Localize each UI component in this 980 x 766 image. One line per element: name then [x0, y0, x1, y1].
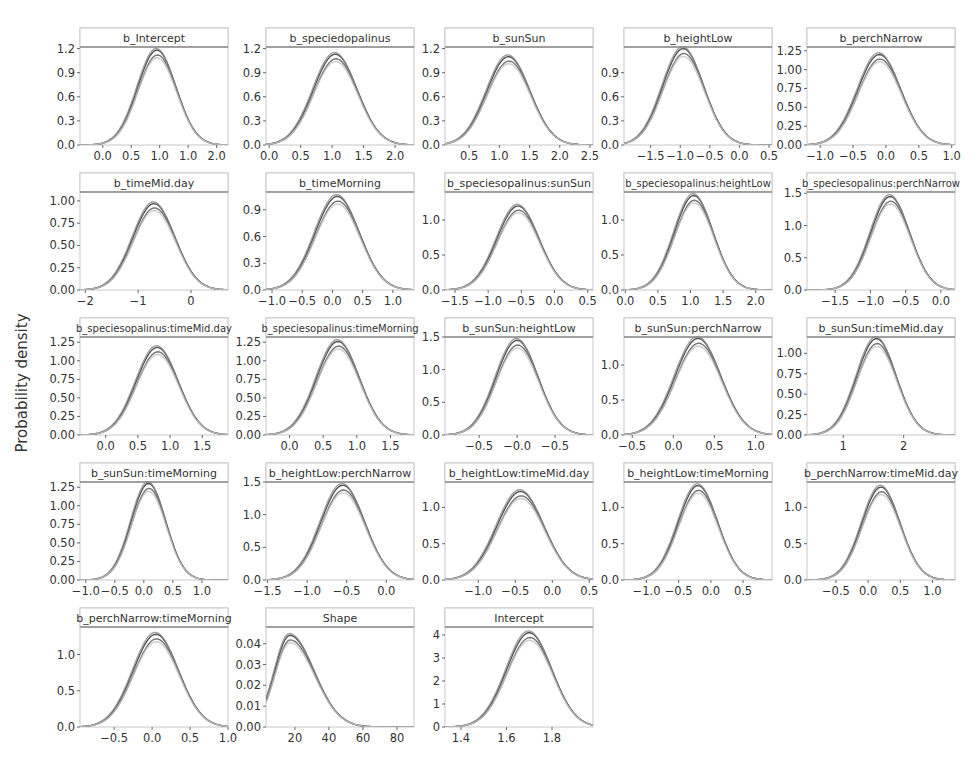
x-tick-label: 60 — [356, 731, 371, 745]
y-tick-label: 1.00 — [235, 354, 261, 368]
x-tick-label: 1.0 — [161, 439, 179, 453]
y-tick-label: 0.00 — [776, 428, 802, 442]
x-tick-label: 0.5 — [291, 149, 309, 163]
x-tick-label: 0.0 — [877, 149, 895, 163]
y-tick-label: 0.5 — [422, 395, 440, 409]
x-tick-label: 1.5 — [714, 294, 732, 308]
x-tick-label: 1.0 — [179, 149, 197, 163]
y-tick-label: 0.0 — [422, 573, 440, 587]
x-tick-label: 0.0 — [859, 584, 877, 598]
x-tick-label: 1.0 — [219, 731, 237, 745]
x-tick-label: −1.0 — [474, 294, 502, 308]
x-tick-label: 20 — [288, 731, 303, 745]
y-tick-label: 1.0 — [601, 358, 619, 372]
x-tick-label: −0.5 — [839, 149, 867, 163]
x-tick-label: −1.5 — [441, 294, 469, 308]
y-tick-label: 1.0 — [422, 213, 440, 227]
y-tick-label: 1.0 — [422, 500, 440, 514]
y-tick-label: 0.25 — [49, 554, 75, 568]
x-tick-label: −0.5 — [101, 584, 129, 598]
facet-panel: b_speciesopalinus:timeMid.day0.000.250.5… — [49, 318, 232, 453]
y-tick-label: 0.9 — [422, 66, 440, 80]
facet-panel: b_timeMid.day0.000.250.500.751.00−2−10 — [49, 173, 228, 308]
y-tick-label: 0.9 — [57, 66, 75, 80]
x-tick-label: 1.0 — [681, 294, 699, 308]
x-tick-label: 1.8 — [543, 731, 561, 745]
y-tick-label: 0.0 — [422, 428, 440, 442]
y-tick-label: 0.50 — [776, 387, 802, 401]
x-tick-label: −0.0 — [503, 439, 531, 453]
facet-title: b_sunSun:perchNarrow — [634, 322, 761, 335]
x-tick-label: 1.0 — [923, 584, 941, 598]
x-tick-label: 0.5 — [181, 731, 199, 745]
facet-title: b_timeMid.day — [114, 177, 195, 190]
x-tick-label: 0.0 — [323, 294, 341, 308]
x-tick-label: 1.5 — [381, 439, 399, 453]
y-tick-label: 0.6 — [243, 230, 261, 244]
x-tick-label: −0.5 — [333, 584, 361, 598]
y-tick-label: 0.5 — [601, 537, 619, 551]
x-tick-label: 80 — [390, 731, 405, 745]
y-tick-label: 0.75 — [49, 517, 75, 531]
y-tick-label: 0.50 — [235, 391, 261, 405]
facet-panel: b_heightLow0.00.30.60.9−1.5−1.0−0.50.00.… — [601, 28, 778, 163]
x-tick-label: −1.0 — [666, 149, 694, 163]
x-tick-label: 2.5 — [581, 149, 599, 163]
y-tick-label: 0.00 — [49, 283, 75, 297]
x-tick-label: −0.5 — [618, 439, 646, 453]
x-tick-label: 0.5 — [579, 294, 597, 308]
facet-panel: Intercept012341.41.61.8 — [433, 608, 593, 745]
x-tick-label: 0.5 — [910, 149, 928, 163]
y-tick-label: 2 — [433, 674, 440, 688]
facet-panel: b_speciesopalinus:timeMorning0.000.250.5… — [235, 318, 418, 453]
x-tick-label: 0.0 — [280, 439, 298, 453]
y-tick-label: 1.00 — [776, 346, 802, 360]
y-tick-label: 0.9 — [601, 66, 619, 80]
y-tick-label: 0.3 — [57, 114, 75, 128]
y-tick-label: 1.0 — [784, 500, 802, 514]
x-tick-label: 0.0 — [377, 584, 395, 598]
facet-title: b_sunSun:timeMid.day — [819, 322, 944, 335]
facet-title: b_speciesopalinus:sunSun — [447, 177, 591, 190]
x-tick-label: 1.0 — [746, 439, 764, 453]
x-tick-label: 1.0 — [193, 584, 211, 598]
x-tick-label: −0.5 — [288, 294, 316, 308]
y-tick-label: 0.00 — [49, 428, 75, 442]
y-tick-label: 1.2 — [57, 42, 75, 56]
x-tick-label: 0.5 — [129, 439, 147, 453]
facet-title: b_heightLow:perchNarrow — [269, 467, 412, 480]
facet-title: b_speciesopalinus:heightLow — [625, 178, 771, 190]
facet-panel: b_perchNarrow:timeMid.day0.00.51.0−0.50.… — [784, 463, 959, 598]
facet-title: Intercept — [494, 612, 544, 625]
facet-title: Shape — [323, 612, 358, 625]
x-tick-label: 1.0 — [323, 149, 341, 163]
y-tick-label: 1 — [433, 697, 440, 711]
density-facet-grid: b_Intercept0.00.30.60.91.20.00.51.01.02.… — [0, 0, 980, 766]
y-tick-label: 0.0 — [601, 428, 619, 442]
facet-panel: b_sunSun:perchNarrow0.00.51.0−0.50.00.51… — [601, 318, 772, 453]
x-tick-label: 0.5 — [314, 439, 332, 453]
facet-title: b_Intercept — [123, 32, 186, 45]
facet-panel: b_timeMorning0.00.30.60.9−1.0−0.50.00.51… — [243, 173, 414, 308]
x-tick-label: 2.0 — [551, 149, 569, 163]
x-tick-label: −1.0 — [633, 584, 661, 598]
y-tick-label: 1.25 — [49, 335, 75, 349]
x-tick-label: 0.5 — [705, 439, 723, 453]
y-tick-label: 1.2 — [422, 42, 440, 56]
y-tick-label: 0.50 — [49, 536, 75, 550]
y-tick-label: 0.3 — [422, 114, 440, 128]
x-tick-label: −0.5 — [465, 439, 493, 453]
y-tick-label: 0.9 — [243, 66, 261, 80]
y-tick-label: 1.0 — [57, 648, 75, 662]
x-tick-label: 0.0 — [97, 439, 115, 453]
y-tick-label: 0.50 — [776, 100, 802, 114]
facet-panel: b_heightLow:timeMid.day0.00.51.0−1.0−0.5… — [422, 463, 599, 598]
x-tick-label: 1.4 — [452, 731, 470, 745]
facet-panel: b_speciedopalinus0.00.30.60.91.20.00.51.… — [243, 28, 414, 163]
facet-title: b_sunSun:heightLow — [462, 322, 576, 335]
y-tick-label: 0.01 — [235, 699, 261, 713]
x-tick-label: −1.5 — [254, 584, 282, 598]
facet-title: b_speciedopalinus — [289, 32, 390, 45]
x-tick-label: 1.0 — [943, 149, 961, 163]
x-tick-label: 0.0 — [664, 439, 682, 453]
